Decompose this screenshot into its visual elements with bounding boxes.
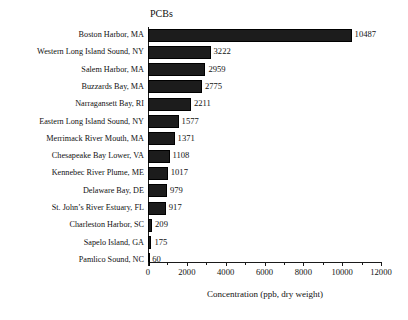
x-tick-major xyxy=(226,262,227,266)
bar xyxy=(148,219,152,232)
x-tick-label: 12000 xyxy=(370,267,391,278)
bar-category-label: Narragansett Bay, RI xyxy=(0,97,144,110)
bar-category-label: Sapelo Island, GA xyxy=(0,236,144,249)
bar-value-label: 1108 xyxy=(173,149,190,162)
x-tick-label: 6000 xyxy=(256,267,273,278)
pcb-concentration-bar-chart: PCBs Boston Harbor, MA10487Western Long … xyxy=(0,0,408,320)
bar-value-label: 2211 xyxy=(194,97,211,110)
x-tick-major xyxy=(187,262,188,266)
x-tick-label: 8000 xyxy=(295,267,312,278)
bar-category-label: Eastern Long Island Sound, NY xyxy=(0,115,144,128)
bar-rows-container: Boston Harbor, MA10487Western Long Islan… xyxy=(0,27,408,262)
bar-row: Salem Harbor, MA2959 xyxy=(0,62,408,79)
bar-value-label: 1577 xyxy=(182,115,199,128)
x-tick-major xyxy=(265,262,266,266)
bar-value-label: 1371 xyxy=(178,132,195,145)
x-tick-major xyxy=(342,262,343,266)
bar-value-label: 10487 xyxy=(355,28,376,41)
bar-row: Buzzards Bay, MA2775 xyxy=(0,79,408,96)
bar xyxy=(148,184,167,197)
x-tick-major xyxy=(148,262,149,266)
x-tick-label: 0 xyxy=(146,267,150,278)
x-tick-minor xyxy=(167,262,168,265)
bar-category-label: Boston Harbor, MA xyxy=(0,28,144,41)
bar-value-label: 2959 xyxy=(208,63,225,76)
bar-value-label: 175 xyxy=(154,236,167,249)
bar-row: Merrimack River Mouth, MA1371 xyxy=(0,131,408,148)
bar xyxy=(148,80,202,93)
bar-category-label: Delaware Bay, DE xyxy=(0,184,144,197)
x-axis-title: Concentration (ppb, dry weight) xyxy=(148,288,382,300)
bar-category-label: Buzzards Bay, MA xyxy=(0,80,144,93)
x-tick-minor xyxy=(245,262,246,265)
bar xyxy=(148,63,205,76)
bar-category-label: Salem Harbor, MA xyxy=(0,63,144,76)
bar-value-label: 2775 xyxy=(205,80,222,93)
bar-row: Sapelo Island, GA175 xyxy=(0,235,408,252)
x-tick-minor xyxy=(323,262,324,265)
bar-value-label: 209 xyxy=(155,218,168,231)
bar xyxy=(148,46,211,59)
bar xyxy=(148,236,151,249)
bar-value-label: 1017 xyxy=(171,166,188,179)
bar xyxy=(148,98,191,111)
bar xyxy=(148,29,352,42)
bar xyxy=(148,115,179,128)
bar-value-label: 979 xyxy=(170,184,183,197)
bar-row: Narragansett Bay, RI2211 xyxy=(0,96,408,113)
chart-title: PCBs xyxy=(150,8,173,20)
x-tick-label: 4000 xyxy=(217,267,234,278)
bar-category-label: St. John’s River Estuary, FL xyxy=(0,201,144,214)
x-tick-minor xyxy=(206,262,207,265)
bar-category-label: Merrimack River Mouth, MA xyxy=(0,132,144,145)
bar-row: Charleston Harbor, SC209 xyxy=(0,217,408,234)
x-tick-label: 2000 xyxy=(178,267,195,278)
bar-row: St. John’s River Estuary, FL917 xyxy=(0,200,408,217)
bar-row: Chesapeake Bay Lower, VA1108 xyxy=(0,148,408,165)
bar xyxy=(148,150,170,163)
bar-value-label: 3222 xyxy=(214,45,231,58)
bar-row: Boston Harbor, MA10487 xyxy=(0,27,408,44)
bar-row: Kennebec River Plume, ME1017 xyxy=(0,165,408,182)
bar-category-label: Charleston Harbor, SC xyxy=(0,218,144,231)
bar-row: Western Long Island Sound, NY3222 xyxy=(0,44,408,61)
x-tick-minor xyxy=(362,262,363,265)
bar-value-label: 917 xyxy=(169,201,182,214)
x-tick-major xyxy=(303,262,304,266)
bar-category-label: Kennebec River Plume, ME xyxy=(0,166,144,179)
bar xyxy=(148,167,168,180)
bar-category-label: Chesapeake Bay Lower, VA xyxy=(0,149,144,162)
x-tick-major xyxy=(381,262,382,266)
x-tick-label: 10000 xyxy=(331,267,352,278)
bar xyxy=(148,132,175,145)
bar xyxy=(148,202,166,215)
x-tick-minor xyxy=(284,262,285,265)
bar-row: Delaware Bay, DE979 xyxy=(0,183,408,200)
bar-category-label: Western Long Island Sound, NY xyxy=(0,45,144,58)
bar-row: Eastern Long Island Sound, NY1577 xyxy=(0,114,408,131)
